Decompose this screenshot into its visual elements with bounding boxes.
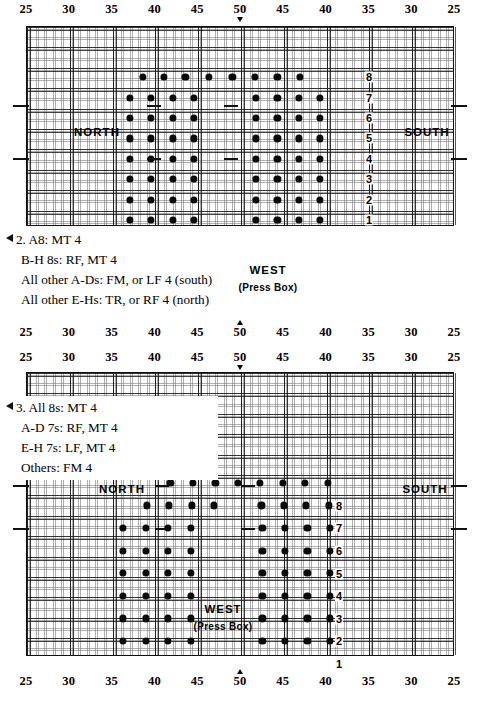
interior-hash-tick [224, 105, 238, 107]
rank-number-label: 2 [365, 194, 373, 205]
ruler-tick-label: 25 [20, 325, 33, 340]
note-line: Others: FM 4 [6, 458, 214, 478]
ruler-tick-label: 30 [62, 350, 75, 365]
interior-hash-tick [224, 158, 238, 160]
rank-number-label: 2 [335, 636, 343, 647]
south-label: SOUTH [404, 126, 449, 138]
triangle-bullet-icon [6, 234, 13, 242]
ruler-tick-label: 35 [362, 2, 375, 17]
ruler-tick-label: 35 [362, 325, 375, 340]
ruler-bottom: 2530354045504540353025 [26, 674, 454, 692]
ruler-tick-label: 50 [234, 350, 247, 365]
yard-line [455, 373, 456, 655]
sideline-hash-tick [451, 158, 467, 160]
sideline-hash-tick [13, 158, 29, 160]
rank-number-label: 5 [335, 568, 343, 579]
interior-hash-tick [241, 528, 255, 530]
west-label: WEST [194, 601, 253, 619]
rank-number-label: 7 [365, 92, 373, 103]
ruler-tick-label: 40 [319, 674, 332, 689]
ruler-tick-label: 40 [148, 674, 161, 689]
note-line: 3. All 8s: MT 4 [6, 398, 214, 418]
ruler-tick-label: 35 [105, 325, 118, 340]
rank-number-label: 4 [365, 153, 373, 164]
ruler-tick-label: 40 [319, 325, 332, 340]
yard-line [27, 27, 28, 225]
rank-number-label: 5 [365, 133, 373, 144]
interior-hash-tick [147, 105, 161, 107]
ruler-tick-label: 45 [276, 325, 289, 340]
note-line: E-H 7s: LF, MT 4 [6, 438, 214, 458]
press-box-label: (Press Box) [239, 280, 298, 296]
arrow-down-icon [237, 17, 243, 22]
ruler-tick-label: 25 [20, 2, 33, 17]
yard-line [284, 373, 285, 655]
rank-number-label: 1 [335, 659, 343, 670]
rank-number-label: 7 [335, 523, 343, 534]
yard-line [198, 27, 199, 225]
note-block-3: 3. All 8s: MT 4A-D 7s: RF, MT 4E-H 7s: L… [6, 396, 218, 480]
ruler-tick-label: 50 [234, 2, 247, 17]
rank-number-label: 4 [335, 591, 343, 602]
ruler-tick-label: 45 [191, 674, 204, 689]
yard-line [241, 27, 242, 225]
ruler-tick-label: 35 [105, 674, 118, 689]
ruler-tick-label: 25 [20, 350, 33, 365]
north-label: NORTH [74, 126, 120, 138]
ruler-middle-upper: 2530354045504540353025 [26, 325, 454, 343]
ruler-tick-label: 35 [362, 674, 375, 689]
rank-number-label: 8 [335, 500, 343, 511]
ruler-tick-label: 40 [148, 350, 161, 365]
note-line: 2. A8: MT 4 [6, 230, 318, 250]
rank-number-label: 1 [365, 215, 373, 226]
ruler-tick-label: 30 [62, 325, 75, 340]
west-press-box-label: WEST(Press Box) [194, 601, 253, 634]
ruler-tick-label: 40 [148, 2, 161, 17]
ruler-tick-label: 25 [448, 350, 461, 365]
ruler-tick-label: 50 [234, 674, 247, 689]
rank-number-label: 3 [365, 174, 373, 185]
yard-line [412, 373, 413, 655]
ruler-tick-label: 25 [448, 325, 461, 340]
drill-chart-sheet: 2530354045504540353025 87654321NORTHSOUT… [0, 0, 480, 703]
interior-hash-tick [147, 158, 161, 160]
rank-number-label: 6 [335, 546, 343, 557]
arrow-up-icon [237, 320, 243, 325]
rank-number-label: 6 [365, 113, 373, 124]
ruler-tick-label: 45 [191, 325, 204, 340]
yard-line [327, 373, 328, 655]
ruler-tick-label: 45 [191, 350, 204, 365]
ruler-tick-label: 40 [148, 325, 161, 340]
sideline-hash-tick [451, 528, 467, 530]
rank-number-label: 3 [335, 613, 343, 624]
ruler-tick-label: 45 [276, 674, 289, 689]
ruler-tick-label: 40 [319, 2, 332, 17]
ruler-tick-label: 30 [405, 2, 418, 17]
note-line: A-D 7s: RF, MT 4 [6, 418, 214, 438]
ruler-tick-label: 30 [62, 2, 75, 17]
south-label: SOUTH [402, 483, 447, 495]
ruler-tick-label: 30 [405, 350, 418, 365]
interior-hash-tick [241, 485, 255, 487]
arrow-up-icon [237, 669, 243, 674]
ruler-middle-lower: 2530354045504540353025 [26, 350, 454, 368]
yard-line [284, 27, 285, 225]
ruler-tick-label: 25 [448, 2, 461, 17]
sideline-hash-tick [13, 485, 29, 487]
sideline-hash-tick [13, 105, 29, 107]
field-upper: 87654321NORTHSOUTH [26, 26, 454, 226]
west-press-box-label: WEST(Press Box) [239, 262, 298, 295]
sideline-hash-tick [13, 528, 29, 530]
yard-line [369, 373, 370, 655]
sideline-hash-tick [451, 485, 467, 487]
yard-line [70, 27, 71, 225]
yard-line [155, 27, 156, 225]
ruler-tick-label: 50 [234, 325, 247, 340]
press-box-label: (Press Box) [194, 619, 253, 635]
ruler-top: 2530354045504540353025 [26, 2, 454, 20]
ruler-tick-label: 45 [276, 350, 289, 365]
north-label: NORTH [99, 483, 145, 495]
rank-number-label: 8 [365, 72, 373, 83]
ruler-tick-label: 30 [62, 674, 75, 689]
ruler-tick-label: 45 [276, 2, 289, 17]
